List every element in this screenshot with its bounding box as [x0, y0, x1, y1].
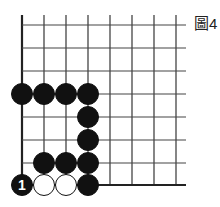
black-stone — [34, 84, 55, 105]
black-stone — [78, 84, 99, 105]
black-stone — [78, 130, 99, 151]
black-stone — [12, 84, 33, 105]
white-stone — [56, 175, 77, 196]
black-stone — [78, 107, 99, 128]
black-stone — [56, 153, 77, 174]
black-stone — [78, 175, 99, 196]
black-stone — [78, 153, 99, 174]
black-stone — [34, 153, 55, 174]
go-board-diagram: 1 — [0, 0, 220, 207]
white-stone — [34, 175, 55, 196]
move-number: 1 — [18, 177, 26, 193]
figure-label: 圖4 — [194, 12, 217, 33]
black-stone — [56, 84, 77, 105]
